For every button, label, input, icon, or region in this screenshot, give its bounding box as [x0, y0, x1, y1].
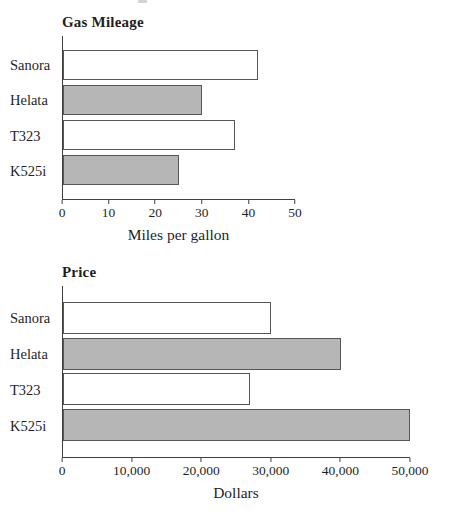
category-label: T323	[0, 121, 62, 151]
category-label: K525i	[0, 156, 62, 186]
category-label: Helata	[0, 85, 62, 115]
x-axis-label: Miles per gallon	[62, 225, 295, 244]
tick-label: 30,000	[252, 463, 289, 479]
tick-mark	[155, 200, 156, 204]
category-labels: SanoraHelataT323K525i	[0, 36, 62, 200]
tick-mark	[270, 458, 271, 462]
tick-mark	[62, 200, 63, 204]
bar-row	[63, 85, 295, 115]
gas-mileage-chart: Gas Mileage SanoraHelataT323K525i 010203…	[0, 12, 452, 244]
tick-mark	[248, 200, 249, 204]
x-tick: 0	[59, 200, 66, 221]
x-tick: 30	[195, 200, 209, 221]
x-tick: 20,000	[183, 458, 220, 479]
x-tick: 20	[148, 200, 162, 221]
tick-mark	[131, 458, 132, 462]
bar-k525i	[63, 409, 410, 441]
bar-sanora	[63, 50, 258, 80]
bar-row	[63, 155, 295, 185]
bar-helata	[63, 85, 202, 115]
bar-row	[63, 302, 410, 334]
bar-t323	[63, 120, 235, 150]
category-label: Sanora	[0, 50, 62, 80]
x-tick: 50	[288, 200, 302, 221]
x-tick: 30,000	[252, 458, 289, 479]
x-axis-ticks: 010,00020,00030,00040,00050,000	[62, 458, 410, 482]
tick-label: 20	[148, 205, 162, 221]
plot-row: SanoraHelataT323K525i	[0, 286, 452, 458]
plot-area	[62, 36, 295, 200]
category-label: Sanora	[0, 302, 62, 334]
cropped-text-remnant	[138, 0, 147, 3]
tick-mark	[340, 458, 341, 462]
tick-label: 40,000	[322, 463, 359, 479]
price-chart: Price SanoraHelataT323K525i 010,00020,00…	[0, 262, 452, 502]
x-tick: 10,000	[113, 458, 150, 479]
category-label: T323	[0, 374, 62, 406]
tick-label: 10,000	[113, 463, 150, 479]
x-axis-label: Dollars	[62, 483, 410, 502]
tick-mark	[201, 458, 202, 462]
plot-area	[62, 286, 410, 458]
bar-k525i	[63, 155, 179, 185]
tick-mark	[410, 458, 411, 462]
x-tick: 10	[102, 200, 116, 221]
bar-row	[63, 338, 410, 370]
x-tick: 40	[242, 200, 256, 221]
tick-label: 30	[195, 205, 209, 221]
x-tick: 40,000	[322, 458, 359, 479]
bar-row	[63, 50, 295, 80]
bar-row	[63, 120, 295, 150]
tick-label: 20,000	[183, 463, 220, 479]
category-labels: SanoraHelataT323K525i	[0, 286, 62, 458]
plot-row: SanoraHelataT323K525i	[0, 36, 452, 200]
x-axis-ticks: 01020304050	[62, 200, 295, 224]
chart-title: Price	[62, 262, 452, 282]
bar-row	[63, 373, 410, 405]
tick-mark	[108, 200, 109, 204]
tick-mark	[62, 458, 63, 462]
tick-label: 40	[242, 205, 256, 221]
bar-row	[63, 409, 410, 441]
tick-label: 10	[102, 205, 116, 221]
tick-label: 0	[59, 205, 66, 221]
category-label: K525i	[0, 410, 62, 442]
x-tick: 0	[59, 458, 66, 479]
bar-helata	[63, 338, 341, 370]
tick-label: 0	[59, 463, 66, 479]
x-tick: 50,000	[391, 458, 428, 479]
bar-t323	[63, 373, 250, 405]
tick-mark	[295, 200, 296, 204]
figure-page: Gas Mileage SanoraHelataT323K525i 010203…	[0, 0, 452, 515]
bar-sanora	[63, 302, 271, 334]
category-label: Helata	[0, 338, 62, 370]
tick-label: 50	[288, 205, 302, 221]
tick-mark	[201, 200, 202, 204]
tick-label: 50,000	[391, 463, 428, 479]
chart-title: Gas Mileage	[62, 12, 452, 32]
